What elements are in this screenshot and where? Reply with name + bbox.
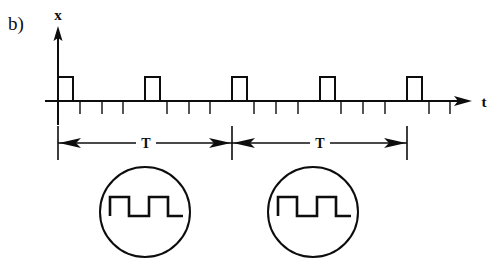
inset-left xyxy=(100,167,190,257)
inset-circle-left xyxy=(100,167,190,257)
axes-group: x t xyxy=(45,7,487,125)
square-wave-icon xyxy=(278,197,351,216)
period-label-right: T xyxy=(315,136,325,151)
panel-label: b) xyxy=(8,13,24,35)
figure-container: b) x t xyxy=(0,0,504,260)
pulse xyxy=(407,77,422,101)
pulse xyxy=(58,77,73,101)
period-label-left: T xyxy=(141,136,151,151)
inset-right xyxy=(268,167,358,257)
pulse xyxy=(145,77,160,101)
pulse xyxy=(320,77,335,101)
dimension-lines-group: T T xyxy=(58,126,407,160)
pulse-train-group xyxy=(58,77,422,101)
square-wave-icon xyxy=(110,197,183,216)
pulse xyxy=(232,77,247,101)
minor-ticks-group xyxy=(80,101,450,114)
x-axis-label: t xyxy=(482,94,487,110)
pulse-train-figure: b) x t xyxy=(0,0,504,260)
y-axis-label: x xyxy=(54,7,62,23)
inset-circle-right xyxy=(268,167,358,257)
